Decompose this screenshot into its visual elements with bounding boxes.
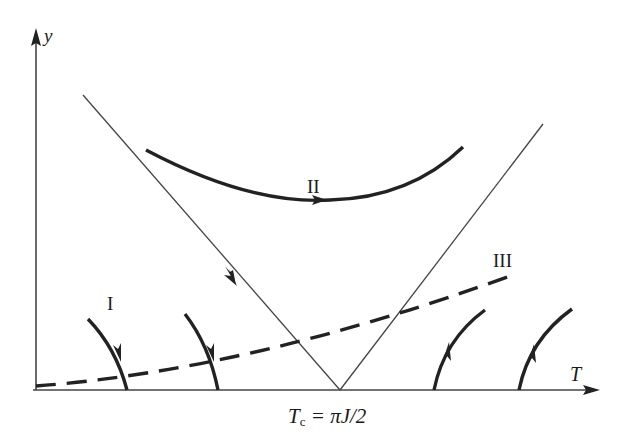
separatrix-arrowhead-icon xyxy=(224,269,237,286)
region-II-label: II xyxy=(307,177,320,196)
flow-right-curve-2 xyxy=(519,309,572,390)
flow-II xyxy=(146,147,463,205)
region-I-label: I xyxy=(107,294,113,313)
critical-T-subscript: c xyxy=(300,414,306,429)
flow-right-curve-1 xyxy=(434,310,485,390)
separatrix xyxy=(83,95,543,390)
critical-temperature-label: Tc = πJ/2 xyxy=(288,406,366,428)
rg-flow-diagram: y T I II III Tc = πJ/2 xyxy=(0,0,626,445)
y-axis xyxy=(31,28,41,390)
region-III-label: III xyxy=(493,251,512,270)
y-axis-label: y xyxy=(44,26,52,45)
separatrix-left xyxy=(83,95,340,390)
critical-T: T xyxy=(288,404,300,428)
x-axis xyxy=(33,385,600,395)
diagram-svg xyxy=(0,0,626,445)
critical-T-value: = πJ/2 xyxy=(311,404,367,428)
flow-right-arrow-icon-1 xyxy=(443,342,451,361)
flow-right xyxy=(434,309,572,390)
x-axis-label: T xyxy=(570,364,581,384)
